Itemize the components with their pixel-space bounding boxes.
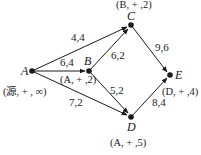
node-label-c: C: [127, 9, 136, 23]
node-mark-a: (源, + , ∞): [3, 85, 47, 98]
edge-label-b-c: 6,2: [111, 49, 125, 61]
node-label-e: E: [174, 68, 183, 82]
node-mark-c: (B, + ,2): [116, 0, 152, 11]
node-a: [29, 68, 35, 74]
node-mark-d: (A, + ,5): [110, 137, 147, 149]
node-b: [86, 68, 92, 74]
node-label-b: B: [84, 54, 92, 68]
edge-label-b-d: 5,2: [110, 84, 124, 96]
edge-label-a-b: 6,4: [60, 56, 74, 68]
node-mark-e: (D, + ,4): [162, 86, 199, 98]
flow-network-diagram: 4,4 6,4 7,2 6,2 5,2 9,6 8,4 A B C D E (源…: [0, 0, 201, 155]
edge-label-a-d: 7,2: [69, 96, 83, 108]
edge-label-d-e: 8,4: [152, 96, 166, 108]
node-d: [128, 114, 134, 120]
node-label-a: A: [20, 64, 29, 78]
edge-label-c-e: 9,6: [155, 41, 169, 53]
node-label-d: D: [126, 120, 136, 134]
node-c: [128, 22, 134, 28]
node-e: [167, 72, 173, 78]
node-mark-b: (A, + ,2): [60, 74, 97, 86]
edge-label-a-c: 4,4: [71, 31, 85, 43]
